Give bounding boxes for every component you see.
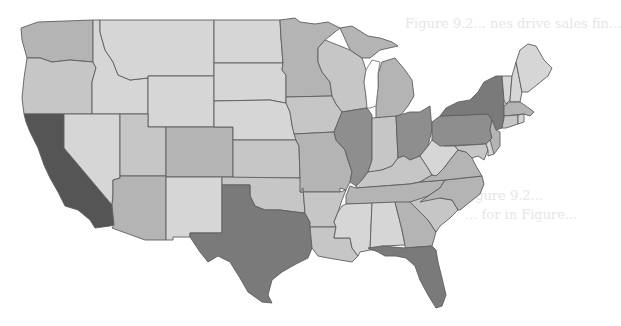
state-wyoming[interactable]	[148, 76, 214, 127]
state-massachusetts[interactable]	[504, 102, 534, 116]
state-florida[interactable]	[368, 246, 446, 308]
state-rhode-island[interactable]	[518, 114, 524, 124]
state-new-mexico[interactable]	[166, 177, 222, 240]
state-washington[interactable]	[21, 20, 93, 62]
state-iowa[interactable]	[286, 96, 342, 134]
state-kansas[interactable]	[233, 140, 300, 178]
state-south-dakota[interactable]	[214, 63, 286, 103]
state-oregon[interactable]	[22, 58, 96, 114]
state-pennsylvania[interactable]	[432, 114, 492, 146]
state-connecticut[interactable]	[502, 115, 518, 128]
state-arizona[interactable]	[112, 176, 166, 240]
state-colorado[interactable]	[166, 127, 233, 177]
states-layer	[21, 18, 552, 308]
state-maine[interactable]	[516, 44, 552, 92]
state-north-dakota[interactable]	[214, 20, 283, 63]
state-montana[interactable]	[100, 20, 214, 80]
